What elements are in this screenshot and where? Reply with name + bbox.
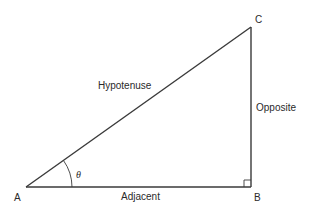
adjacent-label: Adjacent: [121, 191, 160, 202]
vertex-b-label: B: [254, 192, 261, 203]
angle-theta-arc: [64, 161, 73, 188]
hypotenuse-label: Hypotenuse: [98, 80, 152, 91]
side-hypotenuse-line: [26, 27, 251, 187]
vertex-c-label: C: [255, 14, 262, 25]
opposite-label: Opposite: [256, 102, 296, 113]
vertex-a-label: A: [14, 192, 21, 203]
angle-theta-label: θ: [76, 169, 81, 180]
right-triangle-diagram: θ A B C Hypotenuse Opposite Adjacent: [0, 0, 311, 215]
right-angle-marker: [244, 180, 251, 187]
